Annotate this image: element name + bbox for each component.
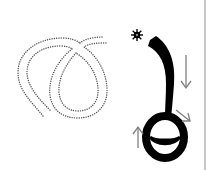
right-divider <box>204 0 206 170</box>
demo-stroke <box>146 36 184 158</box>
star-icon <box>131 29 143 41</box>
stroke-practice-canvas <box>0 0 208 170</box>
dotted-trace-figure <box>18 37 107 118</box>
arrow-down-icon <box>181 55 191 88</box>
arrow-up-icon <box>133 127 143 148</box>
